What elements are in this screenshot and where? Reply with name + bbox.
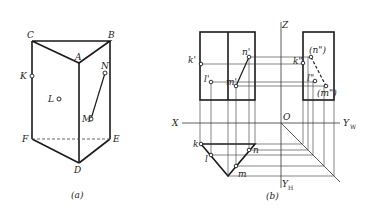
label-K: K [19, 71, 28, 81]
caption-b: (b) [266, 191, 279, 201]
label-l1: l' [204, 74, 209, 84]
point-m [234, 164, 238, 168]
label-L: L [47, 94, 54, 104]
line-MN [91, 73, 105, 119]
label-n1: n' [242, 47, 250, 57]
label-l2: l" [307, 73, 314, 83]
point-n2 [309, 55, 313, 59]
point-l [209, 153, 213, 157]
label-m: m [238, 169, 247, 179]
label-YW-sub: W [350, 123, 357, 130]
point-L [57, 97, 61, 101]
point-K [30, 74, 34, 78]
point-l1 [209, 80, 213, 84]
label-YH-sub: H [288, 184, 293, 191]
caption-a: (a) [71, 190, 84, 200]
label-C: C [27, 30, 34, 40]
label-m2: (m") [317, 88, 337, 98]
label-k: k [193, 139, 198, 149]
label-YW: Y [343, 118, 350, 128]
label-N: N [100, 61, 110, 71]
label-A: A [74, 52, 82, 62]
label-E: E [112, 134, 120, 144]
edge-DE [79, 139, 110, 163]
edge-FD [32, 139, 79, 163]
label-n: n [253, 145, 259, 155]
label-F: F [21, 134, 29, 144]
orthographic-projection-figure: C B A F E D K L M N (a) [0, 0, 379, 217]
label-D: D [73, 165, 81, 175]
label-k1: k' [188, 55, 196, 65]
point-N [103, 71, 107, 75]
label-Z: Z [281, 20, 289, 30]
label-m1: m' [226, 77, 237, 87]
projector-lines-top-to-miter [211, 144, 334, 176]
label-n2: (n") [309, 45, 326, 55]
label-O: O [283, 112, 291, 122]
miter-45-line [281, 123, 340, 182]
point-k1 [199, 62, 203, 66]
label-X: X [171, 118, 179, 128]
label-k2: k" [293, 56, 303, 66]
three-view-projection: Z X O Y W Y H k' l' m' n' (n") k" l" (m"… [171, 20, 357, 201]
label-M: M [81, 114, 92, 124]
front-line-mn [236, 57, 249, 86]
label-l: l [205, 154, 208, 164]
point-n [247, 148, 251, 152]
point-k [199, 142, 203, 146]
prism-3d-view: C B A F E D K L M N (a) [19, 30, 120, 200]
label-B: B [107, 30, 115, 40]
prism-top-face [32, 41, 110, 63]
